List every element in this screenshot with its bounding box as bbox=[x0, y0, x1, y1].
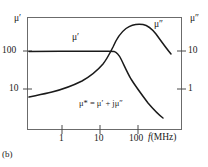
figure-container: μ′ μ″ μ′ μ″ μ* = μ′ + jμ″ f(MHz) 100 10 … bbox=[0, 0, 208, 167]
x-axis-title: f(MHz) bbox=[148, 133, 177, 143]
y-axis-right-title-text: μ″ bbox=[190, 13, 199, 23]
permeability-spectrum-chart bbox=[0, 0, 208, 167]
plot-frame bbox=[28, 18, 182, 130]
y-left-tick-label-100: 100 bbox=[2, 46, 16, 56]
y-left-tick-label-10: 10 bbox=[9, 84, 19, 94]
annotation-mu-imaginary-text: μ″ bbox=[154, 19, 163, 29]
annotation-mu-imaginary: μ″ bbox=[154, 20, 163, 30]
x-tick-label-1: 1 bbox=[59, 134, 64, 144]
figure-caption: (b) bbox=[2, 150, 13, 159]
annotation-mu-real-text: μ′ bbox=[72, 32, 79, 42]
annotation-mu-real: μ′ bbox=[72, 33, 79, 43]
annotation-equation: μ* = μ′ + jμ″ bbox=[79, 99, 123, 108]
y-axis-left-title-text: μ′ bbox=[14, 13, 21, 23]
y-axis-right-title: μ″ bbox=[190, 14, 199, 24]
y-right-tick-label-1: 1 bbox=[188, 84, 193, 94]
y-axis-left-title: μ′ bbox=[14, 14, 21, 24]
x-tick-label-10: 10 bbox=[94, 134, 104, 144]
y-right-tick-label-10: 10 bbox=[188, 46, 198, 56]
annotation-equation-text: μ* = μ′ + jμ″ bbox=[79, 98, 123, 108]
x-tick-label-100: 100 bbox=[129, 134, 143, 144]
x-axis-title-unit: (MHz) bbox=[151, 132, 177, 142]
